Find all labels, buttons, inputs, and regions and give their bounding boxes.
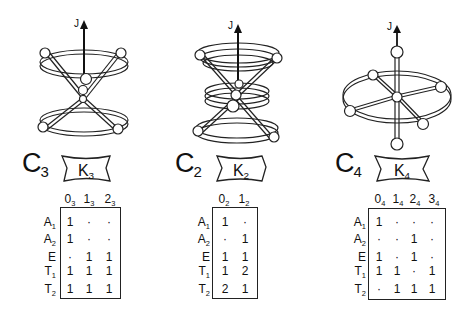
table-cell: 1 <box>217 265 233 277</box>
table-cell: 1 <box>389 283 405 295</box>
table-cell: · <box>424 251 440 263</box>
row-label: T2 <box>344 283 366 297</box>
table-cell: · <box>371 283 387 295</box>
table-cell: 1 <box>81 251 97 263</box>
col-header: 34 <box>424 193 444 207</box>
table-cell: 1 <box>101 283 117 295</box>
table-cell: · <box>424 216 440 228</box>
point-group-label-c4: C4 <box>335 150 361 179</box>
table-cell: 1 <box>371 251 387 263</box>
table-cell: · <box>81 233 97 245</box>
table-cell: 1 <box>217 251 233 263</box>
table-cell: · <box>101 216 117 228</box>
table-cell: 1 <box>424 283 440 295</box>
j-label: J <box>387 21 392 32</box>
table-cell: 1 <box>371 216 387 228</box>
table-cell: 1 <box>406 233 422 245</box>
j-arrow-icon <box>234 24 242 33</box>
col-header: 24 <box>405 193 425 207</box>
table-cell: · <box>81 216 97 228</box>
point-group-label-c2: C2 <box>175 150 201 179</box>
row-label: T1 <box>188 265 210 279</box>
j-label: J <box>228 20 233 31</box>
panel-c3: J C3 K3 03 13 23 A1 A2 E T1 T2 <box>0 0 160 315</box>
table-cell: · <box>406 216 422 228</box>
table-cell: 1 <box>406 283 422 295</box>
table-cell: · <box>62 251 78 263</box>
table-cell: 1 <box>62 233 78 245</box>
row-label: T1 <box>344 265 366 279</box>
col-header: 12 <box>234 193 254 207</box>
row-label: A2 <box>344 233 366 247</box>
row-label: T2 <box>188 283 210 297</box>
row-label: T2 <box>34 283 56 297</box>
table-cell: 1 <box>62 216 78 228</box>
table-cell: · <box>424 233 440 245</box>
row-label: A1 <box>344 216 366 230</box>
table-cell: 1 <box>62 265 78 277</box>
row-label: A2 <box>34 233 56 247</box>
table-cell: 1 <box>406 251 422 263</box>
table-cell: 1 <box>217 216 233 228</box>
table-cell: 1 <box>101 251 117 263</box>
table-cell: 1 <box>389 265 405 277</box>
table-cell: · <box>406 265 422 277</box>
col-header: 13 <box>79 193 99 207</box>
col-header: 23 <box>100 193 120 207</box>
row-label: A1 <box>188 216 210 230</box>
table-cell: · <box>389 216 405 228</box>
table-cell: · <box>237 216 253 228</box>
col-header: 04 <box>370 193 390 207</box>
k-banner-c2: K2 <box>214 154 268 184</box>
j-label: J <box>74 18 79 29</box>
table-cell: 1 <box>237 233 253 245</box>
k-label-c4: K4 <box>373 163 431 181</box>
table-cell: 1 <box>81 283 97 295</box>
table-cell: · <box>217 233 233 245</box>
k-banner-c4: K4 <box>373 154 431 184</box>
row-label: A1 <box>34 216 56 230</box>
c2-molecule-diagram: J <box>150 0 310 160</box>
table-cell: 1 <box>81 265 97 277</box>
col-header: 03 <box>60 193 80 207</box>
table-cell: 1 <box>237 251 253 263</box>
table-cell: 2 <box>237 265 253 277</box>
table-cell: · <box>389 251 405 263</box>
k-banner-c3: K3 <box>60 154 112 184</box>
table-cell: · <box>101 233 117 245</box>
table-cell: 1 <box>424 265 440 277</box>
panel-c4: J C4 K4 04 14 24 34 A1 A2 E T1 T2 <box>300 0 474 315</box>
panel-c2: J C2 K2 02 12 A1 A2 E T1 T2 1 · <box>150 0 310 315</box>
k-label-c2: K2 <box>214 163 268 181</box>
c3-molecule-diagram: J <box>0 0 160 160</box>
point-group-label-c3: C3 <box>22 150 48 179</box>
j-arrow-icon <box>80 20 88 29</box>
k-label-c3: K3 <box>60 163 112 181</box>
table-cell: 1 <box>371 265 387 277</box>
row-label: T1 <box>34 265 56 279</box>
table-cell: 1 <box>101 265 117 277</box>
table-cell: 1 <box>237 283 253 295</box>
row-label: A2 <box>188 233 210 247</box>
table-cell: · <box>389 233 405 245</box>
c4-molecule-diagram: J <box>300 0 474 160</box>
table-cell: · <box>371 233 387 245</box>
j-arrow-icon <box>393 25 401 33</box>
table-cell: 2 <box>217 283 233 295</box>
col-header: 02 <box>214 193 234 207</box>
table-cell: 1 <box>62 283 78 295</box>
